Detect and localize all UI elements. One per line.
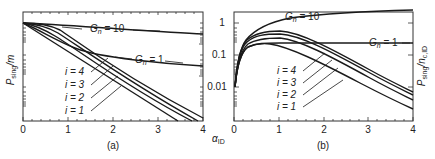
svg-text:0: 0: [231, 124, 237, 135]
label-a-i2: i = 2: [65, 92, 85, 103]
panel-a-xtick-labels: 0 1 2 3 4: [20, 124, 206, 135]
label-a-i4: i = 4: [65, 66, 85, 77]
svg-text:1: 1: [276, 124, 282, 135]
curve-a-i2: [23, 23, 192, 121]
leader-a-gn10-r: [133, 30, 160, 31]
shared-xlabel: αID: [212, 133, 225, 145]
label-a-i1: i = 1: [65, 105, 84, 116]
label-b-i4: i = 4: [277, 65, 297, 76]
svg-text:1: 1: [65, 124, 71, 135]
svg-text:0: 0: [20, 124, 26, 135]
panel-b-xtick-labels: 0 1 2 3 4: [231, 124, 416, 135]
svg-text:2: 2: [110, 124, 116, 135]
leader-b-i3: [303, 60, 332, 83]
svg-text:1: 1: [219, 17, 225, 28]
curve-a-i4: [23, 23, 203, 118]
panel-b-xticks: [234, 117, 413, 121]
leader-b-i2: [303, 68, 338, 95]
svg-text:2: 2: [321, 124, 327, 135]
label-a-i3: i = 3: [65, 79, 85, 90]
leader-a-gn1-r: [165, 61, 183, 63]
svg-text:3: 3: [155, 124, 161, 135]
label-a-gn1: Gn = 1: [135, 54, 164, 66]
svg-text:3: 3: [365, 124, 371, 135]
leader-a-i2: [91, 76, 118, 98]
label-b-i3: i = 3: [277, 77, 297, 88]
svg-text:4: 4: [410, 124, 416, 135]
panel-a-ylabel: Psing/m: [5, 55, 18, 86]
panel-b-ylabel: Psing/nc,ID: [416, 46, 429, 86]
leader-a-gn10: [62, 27, 82, 29]
label-b-i1: i = 1: [277, 101, 296, 112]
svg-text:0.01: 0.01: [207, 81, 227, 92]
panel-b-caption: (b): [317, 140, 329, 151]
curve-a-i1: [23, 23, 178, 121]
leader-b-i1: [303, 80, 343, 107]
shared-yticks: 1 0.1 0.01: [207, 17, 227, 92]
panel-a-caption: (a): [107, 140, 119, 151]
svg-text:4: 4: [200, 124, 206, 135]
figure: Gn = 10 Gn = 1 i = 4 i = 3 i = 2 i = 1 0…: [0, 0, 435, 159]
label-b-i2: i = 2: [277, 89, 297, 100]
svg-text:0.1: 0.1: [212, 49, 226, 60]
label-a-gn10: Gn = 10: [90, 23, 125, 35]
leader-a-i1: [91, 86, 121, 111]
panel-b: Gn = 10 Gn = 1 i = 4 i = 3 i = 2 i = 1 0…: [231, 10, 429, 151]
label-b-gn10: Gn = 10: [285, 11, 320, 23]
panel-a: Gn = 10 Gn = 1 i = 4 i = 3 i = 2 i = 1 0…: [5, 12, 206, 151]
label-b-gn1: Gn = 1: [369, 37, 398, 49]
